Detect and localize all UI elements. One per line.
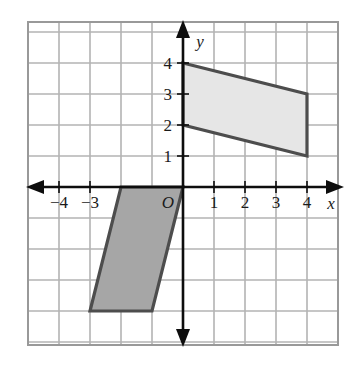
y-tick-label-2: 2 <box>164 116 173 135</box>
y-tick-label-3: 3 <box>164 85 173 104</box>
x-tick-label-neg4: −4 <box>50 193 69 212</box>
coordinate-plot: −4 −3 1 2 3 4 4 3 2 1 O x y <box>0 0 352 367</box>
x-tick-label-3: 3 <box>272 193 281 212</box>
figure-background <box>0 0 352 367</box>
x-tick-label-neg3: −3 <box>81 193 99 212</box>
x-tick-label-2: 2 <box>241 193 250 212</box>
x-tick-label-1: 1 <box>210 193 219 212</box>
y-tick-label-1: 1 <box>164 147 173 166</box>
origin-label: O <box>162 193 174 212</box>
y-axis-label: y <box>194 32 204 51</box>
x-axis-label: x <box>326 194 335 213</box>
coordinate-plane-figure: −4 −3 1 2 3 4 4 3 2 1 O x y <box>0 0 352 367</box>
x-tick-label-4: 4 <box>303 193 312 212</box>
y-tick-label-4: 4 <box>164 54 173 73</box>
